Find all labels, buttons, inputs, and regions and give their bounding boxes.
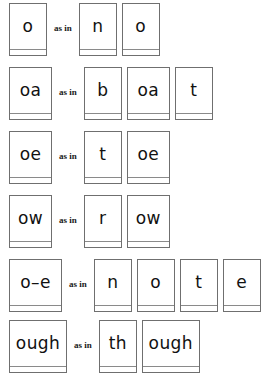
as-in-label: as in: [59, 87, 77, 97]
letter-card-label: th: [109, 335, 127, 352]
letter-card-label: e: [236, 274, 247, 291]
letter-card[interactable]: ough: [142, 320, 200, 373]
letter-card[interactable]: n: [79, 3, 117, 56]
letter-card-label: oa: [137, 82, 159, 99]
grapheme-card-ow[interactable]: ow: [9, 195, 52, 248]
as-in-label: as in: [74, 340, 92, 350]
letter-card[interactable]: t: [180, 259, 218, 312]
worksheet-row-oa: oaas inboat: [0, 67, 279, 125]
letter-card-label: o: [150, 274, 161, 291]
letter-card-label: n: [92, 18, 103, 35]
worksheet-row-oe: oeas intoe: [0, 131, 279, 189]
letter-card-label: o: [135, 18, 146, 35]
letter-card[interactable]: ow: [127, 195, 170, 248]
letter-card-label: t: [190, 82, 197, 99]
letter-card[interactable]: o: [122, 3, 160, 56]
letter-card-label: ow: [136, 210, 161, 227]
letter-card-label: t: [99, 146, 106, 163]
letter-card[interactable]: t: [84, 131, 122, 184]
grapheme-card-label: o–e: [20, 274, 51, 291]
letter-card[interactable]: o: [137, 259, 175, 312]
grapheme-card-oa[interactable]: oa: [9, 67, 52, 120]
letter-card-label: r: [99, 210, 106, 227]
as-in-label: as in: [54, 23, 72, 33]
as-in-label: as in: [59, 215, 77, 225]
letter-card-label: n: [107, 274, 118, 291]
grapheme-card-o[interactable]: o: [9, 3, 47, 56]
letter-card[interactable]: oa: [127, 67, 170, 120]
grapheme-card-label: o: [23, 18, 34, 35]
grapheme-card-label: ough: [16, 335, 60, 352]
worksheet-row-o: oas inno: [0, 3, 279, 61]
letter-card-label: ough: [149, 335, 193, 352]
letter-card[interactable]: oe: [127, 131, 170, 184]
grapheme-card-o-e[interactable]: o–e: [9, 259, 62, 312]
letter-card-label: t: [195, 274, 202, 291]
grapheme-card-oe[interactable]: oe: [9, 131, 52, 184]
grapheme-card-label: oa: [20, 82, 42, 99]
letter-card[interactable]: b: [84, 67, 122, 120]
letter-card[interactable]: e: [223, 259, 261, 312]
as-in-label: as in: [59, 151, 77, 161]
letter-card[interactable]: n: [94, 259, 132, 312]
letter-card[interactable]: t: [175, 67, 213, 120]
letter-card-label: oe: [137, 146, 159, 163]
worksheet-row-ough: oughas inthough: [0, 320, 279, 377]
grapheme-card-label: ow: [18, 210, 43, 227]
as-in-label: as in: [69, 279, 87, 289]
worksheet-row-ow: owas inrow: [0, 195, 279, 253]
grapheme-card-label: oe: [20, 146, 42, 163]
letter-card[interactable]: r: [84, 195, 122, 248]
grapheme-card-ough[interactable]: ough: [9, 320, 67, 373]
letter-card[interactable]: th: [99, 320, 137, 373]
phonics-worksheet: oas innooaas inboatoeas intoeowas inrowo…: [0, 0, 279, 377]
worksheet-row-o-e: o–eas innote: [0, 259, 279, 317]
letter-card-label: b: [97, 82, 108, 99]
